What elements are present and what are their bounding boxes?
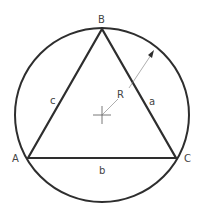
radius-label: R [117,89,124,100]
vertex-label-b: B [98,14,105,25]
side-label-c: c [50,95,56,106]
vertex-label-a: A [12,153,19,164]
circumcircle-diagram: B A C c a b R [0,0,204,212]
side-label-a: a [149,96,155,107]
vertex-label-c: C [184,153,191,164]
side-label-b: b [99,165,105,176]
triangle-abc [28,29,176,158]
